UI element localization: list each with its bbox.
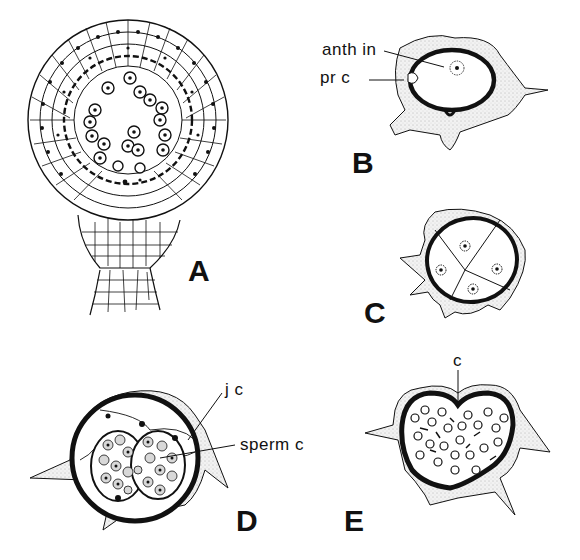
panel-label-d: D — [236, 506, 258, 536]
panel-label-a: A — [188, 256, 210, 286]
panel-label-c: C — [364, 298, 386, 328]
panel-b-drawing — [369, 36, 548, 150]
annotation-pr-c: pr c — [320, 69, 350, 87]
panel-e-drawing — [365, 370, 550, 515]
panel-d-drawing — [30, 391, 235, 530]
panel-label-b: B — [352, 148, 374, 178]
annotation-sperm-c: sperm c — [240, 436, 304, 454]
panel-label-e: E — [344, 506, 364, 536]
panel-c-drawing — [400, 209, 525, 318]
annotation-anth-in: anth in — [322, 41, 377, 59]
annotation-c: c — [453, 352, 462, 370]
annotation-j-c: j c — [225, 381, 244, 399]
botanical-figure — [0, 0, 580, 560]
